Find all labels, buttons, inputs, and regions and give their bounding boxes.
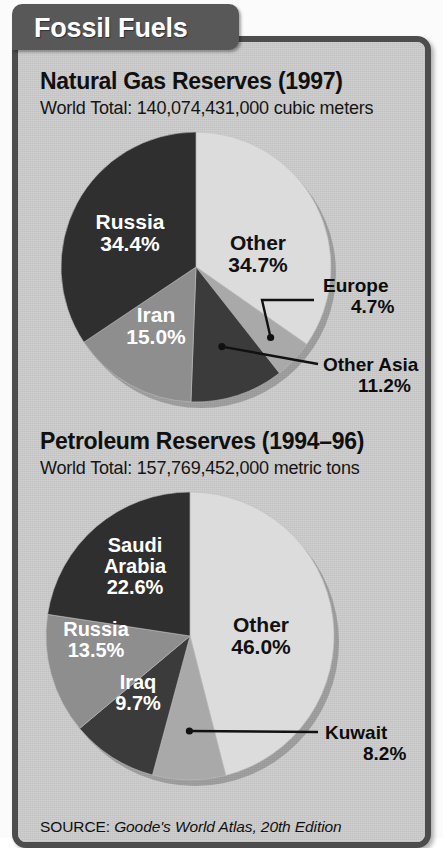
chart-1-subtitle: World Total: 140,074,431,000 cubic meter… [40,98,373,119]
pie-chart-natural-gas: Other34.7%Iran15.0%Russia34.4%Europe4.7%… [18,124,425,424]
callout-label: Other Asia11.2% [323,354,419,396]
callout-dot [186,727,193,734]
slice-label: Other46.0% [231,613,291,658]
callout-leader-line [189,731,318,732]
slice-label: Iraq9.7% [115,671,161,714]
section-tab-fossil-fuels: Fossil Fuels [12,4,239,50]
slice-label: SaudiArabia22.6% [104,534,167,598]
source-note: SOURCE: Goode's World Atlas, 20th Editio… [40,818,342,836]
source-prefix: SOURCE: [40,818,110,835]
callout-dot [218,343,225,350]
chart-2-title: Petroleum Reserves (1994–96) [40,428,364,455]
content-panel: Natural Gas Reserves (1997) World Total:… [12,36,431,848]
chart-2-subtitle: World Total: 157,769,452,000 metric tons [40,458,360,479]
chart-1-title: Natural Gas Reserves (1997) [40,68,343,95]
pie-chart-petroleum: Other46.0%Iraq9.7%Russia13.5%SaudiArabia… [18,484,425,796]
slice-label: Russia13.5% [63,618,129,661]
callout-label: Kuwait8.2% [325,722,406,764]
slice-label: Russia34.4% [96,210,165,255]
source-citation: Goode's World Atlas, 20th Edition [114,818,341,835]
tab-label: Fossil Fuels [34,13,188,44]
slice-label: Other34.7% [228,231,288,276]
callout-dot [267,334,274,341]
